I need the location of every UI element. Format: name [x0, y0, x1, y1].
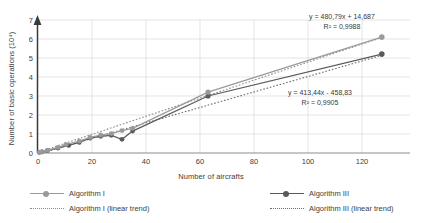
x-tick-80: 80 [239, 157, 269, 166]
legend-label-algorithm-i: Algorithm I [69, 189, 105, 198]
y-tick-1: 1 [17, 130, 33, 139]
legend-label-algorithm-iii-trend: Algorithm III (linear trend) [309, 204, 394, 213]
equation-annotation-algorithm-iii: y = 413,44x - 458,83 R² = 0,9905 [250, 88, 390, 108]
y-tick-4: 4 [17, 73, 33, 82]
equation-text-bottom: y = 413,44x - 458,83 [250, 88, 390, 98]
legend-item-algorithm-iii: Algorithm III [218, 186, 402, 201]
x-tick-20: 20 [77, 157, 107, 166]
y-axis-title: Number of basic operations (10⁴) [7, 24, 16, 154]
y-tick-6: 6 [17, 35, 33, 44]
y-tick-5: 5 [17, 54, 33, 63]
x-tick-60: 60 [185, 157, 215, 166]
y-tick-3: 3 [17, 92, 33, 101]
x-tick-120: 120 [347, 157, 377, 166]
legend-dotted-line-icon [30, 204, 64, 213]
x-axis-title: Number of aircrafts [0, 172, 422, 181]
legend-label-algorithm-iii: Algorithm III [309, 189, 349, 198]
y-tick-7: 7 [17, 16, 33, 25]
chart-legend: Algorithm I Algorithm III Algorithm I (l… [30, 186, 402, 216]
legend-marker-line-icon [30, 189, 64, 198]
x-tick-100: 100 [293, 157, 323, 166]
legend-marker-line-icon [270, 189, 304, 198]
legend-item-algorithm-iii-trend: Algorithm III (linear trend) [218, 201, 402, 216]
equation-text-top: y = 480,79x + 14,687 [272, 12, 412, 22]
chart-container: 7 6 5 4 3 2 1 0 0 20 40 60 80 100 120 Nu… [0, 0, 422, 223]
y-tick-2: 2 [17, 111, 33, 120]
legend-dotted-line-icon [270, 204, 304, 213]
grid-horizontal [37, 20, 410, 134]
x-tick-0: 0 [23, 157, 53, 166]
r-squared-text-bottom: R² = 0,9905 [250, 98, 390, 108]
legend-item-algorithm-i: Algorithm I [30, 186, 214, 201]
legend-item-algorithm-i-trend: Algorithm I (linear trend) [30, 201, 214, 216]
legend-label-algorithm-i-trend: Algorithm I (linear trend) [69, 204, 149, 213]
equation-annotation-algorithm-i: y = 480,79x + 14,687 R² = 0,9988 [272, 12, 412, 32]
x-tick-40: 40 [131, 157, 161, 166]
r-squared-text-top: R² = 0,9988 [272, 22, 412, 32]
